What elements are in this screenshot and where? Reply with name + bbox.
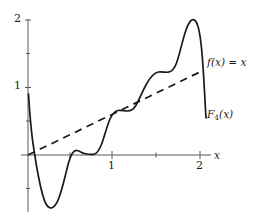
- plot-canvas: [0, 0, 266, 218]
- iterate-curve-F4: [29, 20, 207, 208]
- identity-line-dashed: [28, 71, 202, 155]
- figure-container: 2 1 1 2 x f(x) = x F4(x): [0, 0, 266, 218]
